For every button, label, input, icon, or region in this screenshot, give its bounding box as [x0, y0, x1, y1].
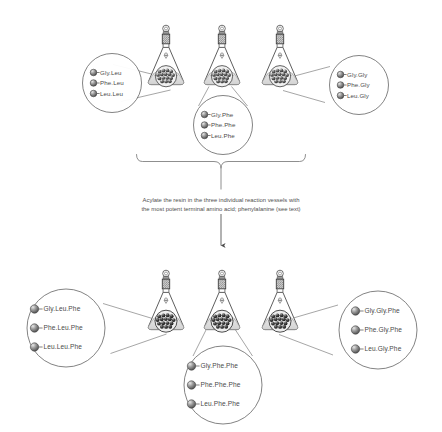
resin-bead-cluster — [155, 66, 176, 87]
pooling-brace — [137, 155, 306, 190]
peptide-label: Leu.Phe — [211, 133, 235, 139]
flask-bottom-left — [148, 270, 183, 332]
flask-top-left — [148, 25, 183, 87]
flask-bottom-center — [204, 270, 239, 332]
resin-bead-cluster — [269, 66, 290, 87]
peptide-label: Gly.Phe.Phe — [201, 363, 239, 370]
resin-bead-cluster — [269, 310, 291, 332]
peptide-label: Gly.Gly — [347, 72, 368, 78]
flask-bottom-right — [262, 270, 297, 332]
peptide-label: Gly.Leu — [100, 70, 122, 76]
peptide-label: Leu.Leu.Phe — [44, 344, 83, 351]
flask-top-center — [204, 25, 239, 87]
peptide-label: Gly.Gly.Phe — [365, 308, 400, 315]
peptide-label: Phe.Leu — [100, 80, 124, 86]
peptide-label: Gly.Leu.Phe — [44, 306, 81, 313]
peptide-label: Gly.Phe — [211, 112, 233, 118]
top-stage-group — [83, 25, 389, 154]
process-caption-line-2: the most potent terminal amino acid; phe… — [0, 205, 442, 214]
peptide-label: Leu.Gly — [347, 93, 369, 99]
peptide-label: Leu.Phe.Phe — [201, 401, 240, 408]
peptide-label: Phe.Phe — [211, 122, 235, 128]
peptide-label: Leu.Leu — [100, 91, 123, 97]
peptide-label: Phe.Leu.Phe — [44, 325, 83, 332]
resin-bead-cluster — [211, 310, 233, 332]
peptide-label: Phe.Gly.Phe — [365, 327, 403, 334]
peptide-label: Leu.Gly.Phe — [365, 346, 402, 353]
peptide-label: Phe.Phe.Phe — [201, 382, 241, 389]
peptide-label: Phe.Gly — [347, 82, 370, 88]
process-caption-line-1: Acylate the resin in the three individua… — [0, 196, 442, 205]
resin-bead-cluster — [155, 310, 177, 332]
flask-top-right — [262, 25, 297, 87]
resin-bead-cluster — [211, 66, 232, 87]
